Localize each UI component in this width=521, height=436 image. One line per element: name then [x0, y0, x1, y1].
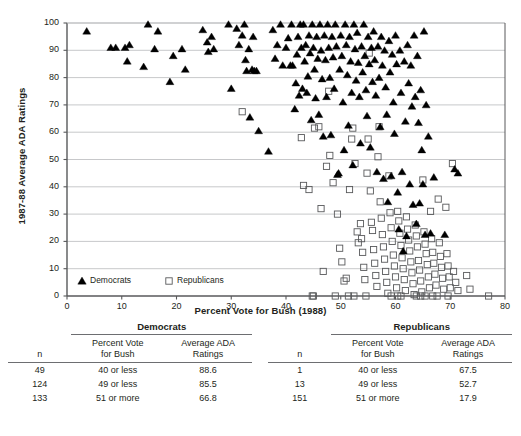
col-header-vote-line1: Percent Vote: [352, 338, 404, 348]
y-tick-label: 50: [27, 154, 59, 164]
plot-canvas: [0, 0, 521, 318]
summary-table-democrats: Democrats n Percent Vote for Bush Averag…: [0, 320, 260, 436]
col-header-ada-line2: Ratings: [193, 349, 224, 359]
y-axis-title: 1987-88 Average ADA Ratings: [16, 16, 27, 296]
spacer-cell: [8, 320, 71, 335]
legend-label-democrats: Democrats: [90, 275, 131, 285]
cell-vote: 40 or less: [331, 363, 424, 378]
cell-vote: 49 or less: [331, 377, 424, 391]
legend-label-republicans: Republicans: [177, 275, 224, 285]
y-tick-label: 20: [27, 235, 59, 245]
scatter-figure: 0102030405060708090100 01020304050607080…: [0, 0, 521, 318]
table-group-title-democrats: Democrats: [71, 320, 252, 335]
cell-n: 124: [8, 377, 71, 391]
y-tick-label: 10: [27, 263, 59, 273]
table-row: 1 40 or less 67.5: [268, 363, 512, 378]
y-tick-label: 70: [27, 99, 59, 109]
table-row: 133 51 or more 66.8: [8, 392, 252, 406]
cell-n: 49: [8, 363, 71, 378]
col-header-vote-democrats: Percent Vote for Bush: [71, 335, 164, 363]
table-row: 151 51 or more 17.9: [268, 392, 512, 406]
cell-vote: 51 or more: [331, 392, 424, 406]
spacer-cell: [268, 320, 331, 335]
col-header-ada-republicans: Average ADA Ratings: [424, 335, 512, 363]
cell-ada: 17.9: [424, 392, 512, 406]
col-header-vote-line1: Percent Vote: [92, 338, 144, 348]
cell-ada: 66.8: [164, 392, 252, 406]
table-body-democrats: 49 40 or less 88.6 124 49 or less 85.5 1…: [8, 363, 252, 406]
table-row: 13 49 or less 52.7: [268, 377, 512, 391]
col-header-ada-line2: Ratings: [453, 349, 484, 359]
cell-ada: 88.6: [164, 363, 252, 378]
y-tick-label: 100: [27, 17, 59, 27]
col-header-vote-line2: for Bush: [361, 349, 395, 359]
y-tick-label: 80: [27, 72, 59, 82]
cell-vote: 49 or less: [71, 377, 164, 391]
col-header-n-democrats: n: [8, 335, 71, 363]
col-header-vote-line2: for Bush: [101, 349, 135, 359]
table-group-title-republicans: Republicans: [331, 320, 512, 335]
summary-tables: Democrats n Percent Vote for Bush Averag…: [0, 320, 521, 436]
cell-vote: 40 or less: [71, 363, 164, 378]
col-header-vote-republicans: Percent Vote for Bush: [331, 335, 424, 363]
y-tick-label: 30: [27, 208, 59, 218]
y-tick-label: 0: [27, 290, 59, 300]
cell-ada: 52.7: [424, 377, 512, 391]
cell-n: 1: [268, 363, 331, 378]
y-tick-label: 90: [27, 44, 59, 54]
gridlines: [67, 23, 505, 269]
y-tick-label: 60: [27, 126, 59, 136]
cell-n: 133: [8, 392, 71, 406]
series-democrats-markers: [83, 21, 462, 254]
table-row: 124 49 or less 85.5: [8, 377, 252, 391]
cell-vote: 51 or more: [71, 392, 164, 406]
col-header-n-republicans: n: [268, 335, 331, 363]
table-body-republicans: 1 40 or less 67.5 13 49 or less 52.7 151…: [268, 363, 512, 406]
summary-table-republicans: Republicans n Percent Vote for Bush Aver…: [260, 320, 520, 436]
x-axis-title: Percent Vote for Bush (1988): [0, 305, 521, 316]
col-header-ada-line1: Average ADA: [181, 338, 235, 348]
cell-ada: 67.5: [424, 363, 512, 378]
cell-ada: 85.5: [164, 377, 252, 391]
cell-n: 151: [268, 392, 331, 406]
cell-n: 13: [268, 377, 331, 391]
y-tick-label: 40: [27, 181, 59, 191]
col-header-ada-democrats: Average ADA Ratings: [164, 335, 252, 363]
col-header-ada-line1: Average ADA: [441, 338, 495, 348]
table-row: 49 40 or less 88.6: [8, 363, 252, 378]
